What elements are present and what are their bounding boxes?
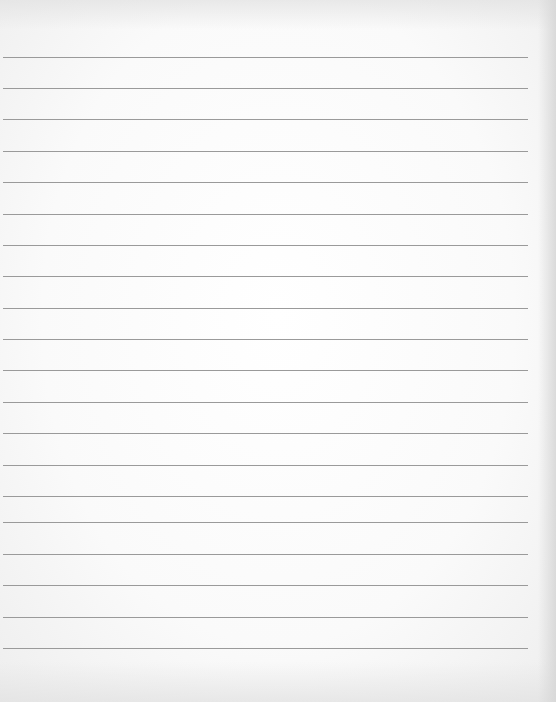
ruled-line [3, 522, 528, 523]
ruled-line [3, 57, 528, 58]
ruled-line [3, 554, 528, 555]
ruled-line [3, 585, 528, 586]
ruled-line [3, 370, 528, 371]
top-shadow [0, 0, 556, 30]
ruled-line [3, 496, 528, 497]
ruled-line [3, 308, 528, 309]
ruled-line [3, 245, 528, 246]
ruled-line [3, 402, 528, 403]
ruled-line [3, 88, 528, 89]
lined-paper [0, 0, 556, 702]
ruled-line [3, 465, 528, 466]
ruled-line [3, 182, 528, 183]
ruled-line [3, 276, 528, 277]
ruled-line [3, 214, 528, 215]
ruled-line [3, 151, 528, 152]
ruled-line [3, 339, 528, 340]
ruled-line [3, 433, 528, 434]
ruled-line [3, 648, 528, 649]
ruled-line [3, 617, 528, 618]
bottom-shadow [0, 662, 556, 702]
ruled-line [3, 119, 528, 120]
right-edge-shadow [538, 0, 556, 702]
